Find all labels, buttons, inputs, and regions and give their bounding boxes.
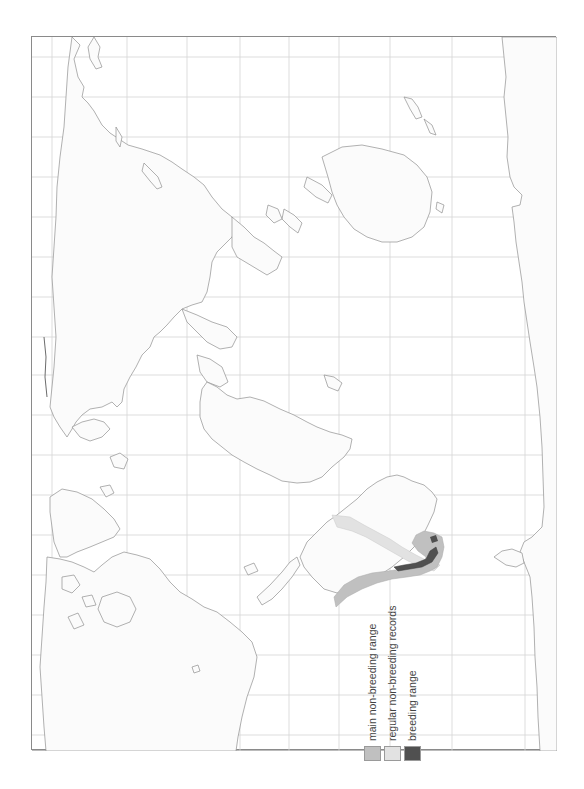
new-zealand xyxy=(404,97,436,135)
greenland xyxy=(50,489,120,557)
antarctic-peninsula xyxy=(494,549,524,567)
legend-label: regular non-breeding records xyxy=(386,606,398,741)
legend-swatch-breeding xyxy=(404,746,421,761)
legend-item-main-non-breeding: main non-breeding range xyxy=(364,597,382,747)
legend-item-regular-non-breeding: regular non-breeding records xyxy=(384,597,402,747)
antarctica xyxy=(502,37,557,751)
borneo xyxy=(266,205,282,223)
australia xyxy=(322,145,432,242)
aleutian-islands xyxy=(44,337,47,397)
new-guinea xyxy=(304,177,332,203)
legend-label: breeding range xyxy=(406,670,418,741)
map-legend: main non-breeding range regular non-bree… xyxy=(364,597,424,747)
caribbean-islands xyxy=(244,563,258,575)
legend-swatch-regular-non-breeding xyxy=(384,746,401,761)
africa xyxy=(200,382,352,483)
indonesia-islands xyxy=(282,209,302,233)
scandinavia xyxy=(72,419,110,441)
legend-swatch-main-non-breeding xyxy=(364,746,381,761)
central-america xyxy=(257,557,300,605)
world-map xyxy=(32,37,557,751)
legend-label: main non-breeding range xyxy=(366,624,378,741)
hudson-bay xyxy=(98,592,136,627)
tasmania xyxy=(436,202,444,213)
india xyxy=(182,309,237,349)
arabia xyxy=(197,355,228,387)
southeast-asia xyxy=(232,217,282,275)
map-frame: main non-breeding range regular non-bree… xyxy=(31,36,556,750)
kamchatka-peninsula xyxy=(88,37,102,69)
legend-item-breeding: breeding range xyxy=(404,597,422,747)
